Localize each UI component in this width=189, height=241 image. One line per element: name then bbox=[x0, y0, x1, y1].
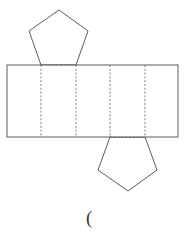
pentagonal-prism-net-diagram bbox=[0, 0, 189, 241]
figure-root: ( bbox=[0, 0, 189, 241]
caption-paren: ( bbox=[86, 208, 92, 227]
lateral-faces-strip bbox=[7, 65, 178, 137]
